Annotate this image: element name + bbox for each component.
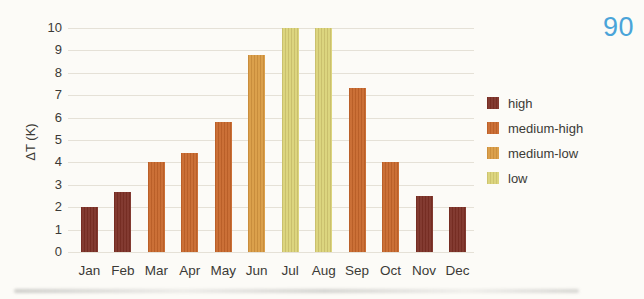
page-scan-artifact [14, 289, 579, 293]
legend-label: medium-high [508, 122, 583, 135]
bar [114, 192, 131, 252]
gridline [68, 185, 474, 186]
bar [449, 207, 466, 252]
legend-swatch [487, 97, 499, 109]
x-tick-label: Jan [79, 263, 101, 278]
x-tick-label: Mar [145, 263, 168, 278]
gridline [68, 162, 474, 163]
bar-chart: ΔT (K) highmedium-highmedium-lowlow 90 0… [0, 0, 644, 299]
gridline [68, 118, 474, 119]
y-tick-label: 1 [20, 222, 62, 238]
legend-swatch [487, 147, 499, 159]
x-tick-label: Sep [345, 263, 369, 278]
x-tick-label: May [211, 263, 237, 278]
y-tick-label: 10 [20, 20, 62, 36]
y-tick-label: 5 [20, 132, 62, 148]
gridline [68, 95, 474, 96]
x-tick-label: Oct [380, 263, 401, 278]
bar [382, 162, 399, 252]
x-tick-label: Jul [282, 263, 299, 278]
gridline [68, 252, 474, 253]
gridline [68, 140, 474, 141]
plot-area [68, 28, 474, 252]
x-tick-label: Nov [412, 263, 436, 278]
legend-label: medium-low [508, 147, 578, 160]
x-tick-label: Dec [445, 263, 469, 278]
bar [81, 207, 98, 252]
legend-item: medium-low [487, 147, 583, 159]
bar [215, 122, 232, 252]
y-tick-label: 6 [20, 110, 62, 126]
bar [181, 153, 198, 252]
x-tick-label: Aug [312, 263, 336, 278]
bar [416, 196, 433, 252]
bar [282, 28, 299, 252]
x-tick-label: Jun [246, 263, 268, 278]
legend-label: low [508, 172, 528, 185]
legend-swatch [487, 172, 499, 184]
x-tick-label: Apr [179, 263, 200, 278]
y-tick-label: 7 [20, 87, 62, 103]
gridline [68, 73, 474, 74]
x-tick-label: Feb [111, 263, 134, 278]
y-tick-label: 0 [20, 244, 62, 260]
y-tick-label: 8 [20, 65, 62, 81]
legend-label: high [508, 97, 533, 110]
y-tick-label: 3 [20, 177, 62, 193]
gridline [68, 50, 474, 51]
bar [148, 162, 165, 252]
legend-item: high [487, 97, 583, 109]
y-tick-label: 9 [20, 42, 62, 58]
bar [349, 88, 366, 252]
y-tick-label: 4 [20, 154, 62, 170]
bar [315, 28, 332, 252]
legend-swatch [487, 122, 499, 134]
gridline [68, 28, 474, 29]
legend-item: medium-high [487, 122, 583, 134]
page-number: 90 [603, 12, 634, 43]
legend: highmedium-highmedium-lowlow [487, 97, 583, 197]
bar [248, 55, 265, 252]
y-tick-label: 2 [20, 199, 62, 215]
legend-item: low [487, 172, 583, 184]
